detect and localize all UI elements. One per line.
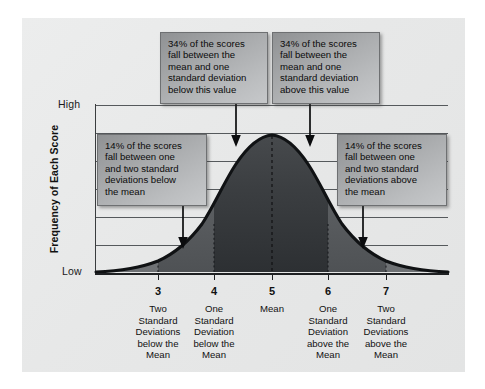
arrow-head-34-above [305, 135, 315, 147]
x-tick-5 [272, 274, 273, 280]
x-tick-4 [214, 274, 215, 280]
x-caption-4: OneStandardDeviationbelow theMean [183, 303, 245, 361]
x-tick-label-4: 4 [194, 285, 234, 297]
arrow-head-34-below [231, 135, 241, 147]
x-tick-7 [386, 274, 387, 280]
callout-14-below: 14% of the scoresfall between oneand two… [97, 134, 207, 206]
x-tick-3 [158, 274, 159, 280]
x-tick-label-3: 3 [138, 285, 178, 297]
x-caption-6: OneStandardDeviationabove theMean [297, 303, 359, 361]
x-tick-6 [328, 274, 329, 280]
x-caption-3: TwoStandardDeviationsbelow theMean [127, 303, 189, 361]
callout-14-above: 14% of the scoresfall between oneand two… [337, 134, 447, 206]
callout-34-below: 34% of the scoresfall between themean an… [160, 32, 268, 104]
x-tick-label-7: 7 [366, 285, 406, 297]
x-caption-7: TwoStandardDeviationsabove theMean [355, 303, 417, 361]
x-tick-label-6: 6 [308, 285, 348, 297]
x-caption-5: Mean [241, 303, 303, 315]
callout-34-above: 34% of the scoresfall between themean an… [272, 32, 380, 104]
figure-root: High Low Frequency of Each Score [0, 0, 485, 389]
x-tick-label-5: 5 [252, 285, 292, 297]
